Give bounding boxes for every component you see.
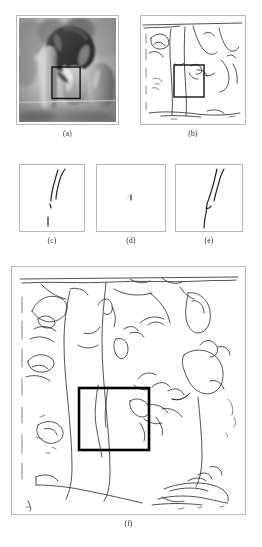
panel-e-edge-detail	[175, 164, 243, 232]
panel-c-edge-detail	[19, 164, 85, 232]
panel-d-edge-detail	[96, 164, 166, 232]
figure-container: (a)	[0, 0, 262, 547]
panel-f-edge-map-large	[11, 266, 246, 515]
edge-map-f	[12, 267, 245, 514]
caption-c: (c)	[19, 236, 85, 245]
panel-a-photograph	[16, 15, 119, 125]
edge-detail-c	[20, 165, 84, 231]
panel-b-edge-map	[140, 15, 246, 125]
caption-f: (f)	[11, 519, 246, 528]
edge-detail-d	[97, 165, 165, 231]
caption-b: (b)	[140, 129, 246, 138]
photo-vignette	[19, 18, 116, 122]
peppers-photo	[19, 18, 116, 122]
edge-map-b	[141, 16, 245, 124]
edge-detail-e	[176, 165, 242, 231]
caption-a: (a)	[16, 129, 119, 138]
caption-d: (d)	[96, 236, 166, 245]
caption-e: (e)	[175, 236, 243, 245]
